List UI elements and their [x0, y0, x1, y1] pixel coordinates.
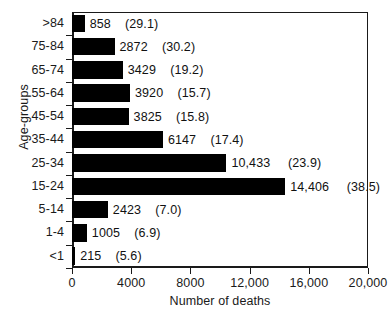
- bar-percent-label: (5.6): [115, 249, 141, 263]
- bar-value-label: 3429: [128, 63, 156, 77]
- y-axis-tick-label: 25-34: [32, 152, 64, 175]
- y-axis-tick-label: >84: [42, 12, 64, 35]
- y-axis-tick-label: 45-54: [32, 105, 64, 128]
- bar: [72, 178, 285, 196]
- y-axis-tick-label: 35-44: [32, 128, 64, 151]
- bar-value-label: 2872: [120, 40, 148, 54]
- y-axis-tick-label: 55-64: [32, 82, 64, 105]
- x-axis-tick-label: 4000: [117, 276, 145, 290]
- bar-percent-label: (38.5): [347, 180, 380, 194]
- x-axis-tick-label: 8000: [176, 276, 204, 290]
- bar-percent-label: (29.1): [125, 17, 158, 31]
- bar: [72, 201, 108, 219]
- bar: [72, 108, 129, 126]
- x-axis-tick-mark: [190, 268, 191, 274]
- x-axis-tick-mark: [368, 268, 369, 274]
- y-axis-tick-label: 75-84: [32, 35, 64, 58]
- y-axis-tick-mark: [66, 152, 72, 153]
- x-axis-tick-label: 20,000: [349, 276, 388, 290]
- y-axis-tick-label: 5-14: [39, 198, 64, 221]
- x-axis-tick-mark: [72, 268, 73, 274]
- x-axis-tick-label: 12,000: [230, 276, 269, 290]
- y-axis-tick-mark: [66, 175, 72, 176]
- bar-value-label: 14,406: [290, 180, 329, 194]
- bar-value-label: 6147: [168, 133, 196, 147]
- bar-value-label: 2423: [113, 203, 141, 217]
- bar-row: 2872(30.2): [72, 35, 368, 58]
- bar-value-label: 215: [80, 249, 101, 263]
- bar-value-label: 858: [90, 17, 111, 31]
- bar-percent-label: (30.2): [162, 40, 195, 54]
- y-axis-tick-mark: [66, 35, 72, 36]
- bar-row: 858(29.1): [72, 12, 368, 35]
- y-axis-tick-label: 15-24: [32, 175, 64, 198]
- y-axis-tick-mark: [66, 245, 72, 246]
- y-axis-tick-mark: [66, 221, 72, 222]
- x-axis-tick-mark: [309, 268, 310, 274]
- x-axis-tick-mark: [131, 268, 132, 274]
- bar-row: 3825(15.8): [72, 105, 368, 128]
- bar-percent-label: (6.9): [134, 226, 160, 240]
- bar-row: 10,433(23.9): [72, 152, 368, 175]
- bar: [72, 15, 85, 33]
- bar: [72, 131, 163, 149]
- bar: [72, 84, 130, 102]
- bar: [72, 247, 75, 265]
- bar-value-label: 1005: [92, 226, 120, 240]
- bar-row: 3920(15.7): [72, 82, 368, 105]
- y-axis-tick-mark: [66, 105, 72, 106]
- bar-value-label: 10,433: [231, 156, 270, 170]
- bar-percent-label: (15.8): [176, 110, 209, 124]
- bar-row: 215(5.6): [72, 245, 368, 268]
- bar-row: 6147(17.4): [72, 128, 368, 151]
- bar-row: 1005(6.9): [72, 221, 368, 244]
- bar-percent-label: (23.9): [288, 156, 321, 170]
- bar-row: 14,406(38.5): [72, 175, 368, 198]
- y-axis-tick-mark: [66, 128, 72, 129]
- bar-percent-label: (19.2): [170, 63, 203, 77]
- bar-value-label: 3920: [135, 86, 163, 100]
- bar-percent-label: (17.4): [210, 133, 243, 147]
- x-axis-title: Number of deaths: [72, 294, 368, 308]
- bar-row: 2423(7.0): [72, 198, 368, 221]
- x-axis-tick-label: 0: [68, 276, 75, 290]
- bar-row: 3429(19.2): [72, 59, 368, 82]
- y-axis-tick-mark: [66, 198, 72, 199]
- bar: [72, 38, 115, 56]
- bar-chart: Age-groups >8475-8465-7455-6445-5435-442…: [0, 0, 390, 317]
- y-axis-tick-label: 65-74: [32, 59, 64, 82]
- bar: [72, 61, 123, 79]
- x-axis-tick-mark: [250, 268, 251, 274]
- bar-value-label: 3825: [134, 110, 162, 124]
- y-axis-tick-label: <1: [50, 245, 64, 268]
- y-axis-tick-label: 1-4: [46, 221, 64, 244]
- bar: [72, 224, 87, 242]
- y-axis-tick-mark: [66, 82, 72, 83]
- bar-percent-label: (7.0): [155, 203, 181, 217]
- x-axis-tick-label: 16,000: [289, 276, 328, 290]
- y-axis-tick-labels: >8475-8465-7455-6445-5435-4425-3415-245-…: [0, 12, 68, 268]
- bar-percent-label: (15.7): [177, 86, 210, 100]
- y-axis-tick-mark: [66, 59, 72, 60]
- bar: [72, 154, 226, 172]
- bar-series: 858(29.1)2872(30.2)3429(19.2)3920(15.7)3…: [72, 12, 368, 268]
